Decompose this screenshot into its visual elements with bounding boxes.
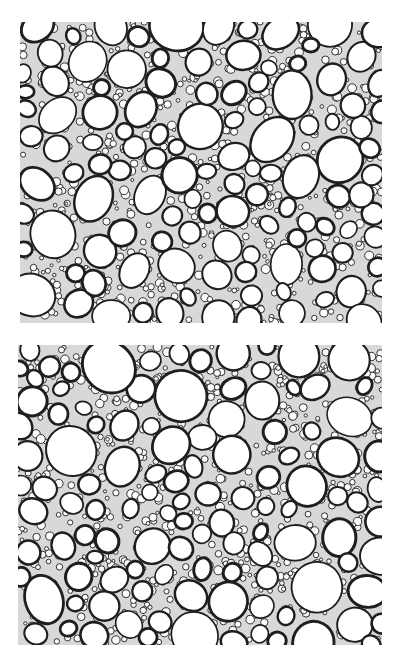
micrograph-bottom [18,345,382,645]
micrograph-top [20,22,382,323]
tissue-cells-top [20,22,382,323]
tissue-cells-bottom [18,345,382,645]
